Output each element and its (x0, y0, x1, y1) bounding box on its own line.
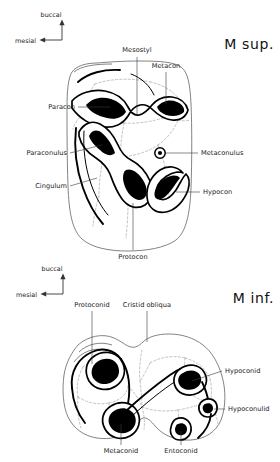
compass-left-arrow-head (40, 37, 46, 42)
label-cristid-obliqua: Cristid obliqua (123, 301, 171, 309)
label-paracon: Paracon (48, 103, 75, 111)
compass-left-label-upper: mesial (15, 37, 36, 45)
label-paraconulus: Paraconulus (27, 149, 68, 157)
panel-lower-molar: buccal mesial M inf. (16, 265, 274, 455)
compass-lower: buccal mesial (16, 265, 66, 299)
label-protocon: Protocon (118, 253, 147, 261)
panel-upper-molar: buccal mesial M sup. (15, 11, 274, 261)
compass-upper: buccal mesial (15, 11, 65, 45)
compass-up-arrow-head-lower (60, 274, 65, 280)
metaconulus-marker (155, 148, 165, 158)
label-entoconid: Entoconid (164, 447, 197, 455)
compass-left-arrow-head-lower (41, 291, 47, 296)
compass-up-arrow-head (59, 20, 64, 26)
figure-root: buccal mesial M sup. (0, 0, 280, 462)
label-cingulum: Cingulum (35, 182, 67, 190)
label-hypocon: Hypocon (203, 188, 232, 196)
label-metaconulus: Metaconulus (201, 149, 244, 157)
label-hypoconulid: Hypoconulid (228, 405, 270, 413)
panel-title-lower: M inf. (233, 290, 274, 306)
molar-diagram-svg: buccal mesial M sup. (0, 0, 280, 462)
label-metacon: Metacon (152, 62, 181, 70)
label-hypoconid: Hypoconid (225, 367, 260, 375)
compass-up-label-upper: buccal (41, 11, 62, 19)
compass-left-label-lower: mesial (16, 291, 37, 299)
panel-title-upper: M sup. (224, 36, 274, 52)
label-metaconid: Metaconid (104, 447, 139, 455)
hypoconulid-dentine (203, 403, 213, 413)
label-mesostyl: Mesostyl (122, 46, 151, 54)
compass-up-label-lower: buccal (42, 265, 63, 273)
label-protoconid: Protoconid (74, 301, 109, 309)
